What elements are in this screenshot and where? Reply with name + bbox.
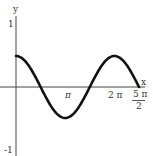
y-tick-neg1: -1 — [4, 146, 13, 155]
y-tick-1: 1 — [8, 20, 14, 29]
x-tick-2pi: 2 π — [108, 91, 123, 100]
x-tick-5pi2-den: 2 — [136, 102, 142, 111]
y-axis-label: y — [13, 5, 18, 14]
plot-area — [0, 0, 153, 156]
x-tick-pi: π — [65, 91, 71, 100]
x-tick-5pi2-num: 5 π — [133, 90, 148, 99]
x-axis-label: x — [141, 78, 146, 87]
